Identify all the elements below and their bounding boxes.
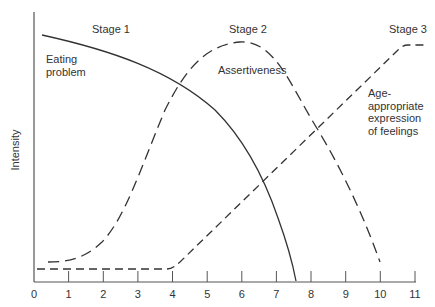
tick-label-9: 9 (343, 288, 349, 300)
age-label-line3: expression (368, 112, 421, 124)
tick-label-10: 10 (374, 288, 386, 300)
x-tick-labels: 0 1 2 3 4 5 6 7 8 9 10 11 (31, 288, 421, 300)
tick-label-3: 3 (135, 288, 141, 300)
tick-label-1: 1 (66, 288, 72, 300)
tick-label-2: 2 (100, 288, 106, 300)
tick-label-11: 11 (409, 288, 420, 300)
y-axis-label: Intensity (9, 129, 21, 170)
tick-label-6: 6 (239, 288, 245, 300)
age-label-line4: of feelings (368, 125, 419, 137)
tick-label-8: 8 (308, 288, 314, 300)
age-label-line2: appropriate (368, 100, 424, 112)
series-assertiveness (48, 42, 380, 262)
tick-label-7: 7 (273, 288, 279, 300)
stage-3-label: Stage 3 (389, 23, 427, 35)
tick-label-0: 0 (31, 288, 37, 300)
age-label-line1: Age- (368, 87, 392, 99)
eating-label-line2: problem (46, 66, 86, 78)
assertiveness-label: Assertiveness (218, 64, 287, 76)
tick-label-5: 5 (204, 288, 210, 300)
eating-label-line1: Eating (46, 53, 77, 65)
stage-1-label: Stage 1 (92, 23, 130, 35)
chart-canvas: 0 1 2 3 4 5 6 7 8 9 10 11 Intensity Stag… (0, 0, 435, 307)
x-ticks (69, 271, 415, 282)
tick-label-4: 4 (169, 288, 175, 300)
stage-2-label: Stage 2 (229, 23, 267, 35)
